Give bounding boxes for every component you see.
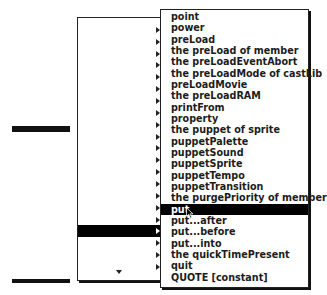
menu-item-mo-to-move[interactable] — [78, 178, 164, 190]
menu-item-p-to-pm[interactable] — [78, 214, 164, 226]
menu-item-m-to-mn[interactable] — [78, 166, 164, 178]
menu-item-fm-to-fz[interactable] — [78, 107, 164, 119]
menu-item-e[interactable] — [78, 83, 164, 95]
submenu-item-the-purgepriority-of-member[interactable]: the purgePriority of member — [161, 192, 308, 203]
submenu-item-preloadmovie[interactable]: preLoadMovie — [161, 79, 308, 90]
submenu-item-label: the preLoadRAM — [171, 90, 261, 101]
submenu-item-label: puppetSprite — [171, 158, 242, 169]
submenu-item-printfrom[interactable]: printFrom — [161, 102, 308, 113]
submenu-item-label: the preLoadMode of castLib — [171, 68, 322, 79]
menu-item-j-k-l-to-lin[interactable] — [78, 143, 164, 155]
submenu-item-power[interactable]: power — [161, 22, 308, 33]
submenu-item-label: preLoad — [171, 34, 215, 45]
menu-item-i[interactable] — [78, 131, 164, 143]
submenu-item-the-puppet-of-sprite[interactable]: the puppet of sprite — [161, 124, 308, 135]
submenu-item-label: puppetSound — [171, 147, 244, 158]
submenu-item-label: puppetTempo — [171, 170, 245, 181]
menu-item-movf-to-no[interactable] — [78, 190, 164, 202]
submenu-item-the-preloadmode-of-castlib[interactable]: the preLoadMode of castLib — [161, 68, 308, 79]
submenu-item-label: the puppet of sprite — [171, 124, 280, 135]
menu-item-ci-to-cz[interactable] — [78, 60, 164, 72]
menu-item-d[interactable] — [78, 71, 164, 83]
submenu-item-puppettransition[interactable]: puppetTransition — [161, 181, 308, 192]
menu-item-np-to-o[interactable] — [78, 202, 164, 214]
submenu-item-quote-constant[interactable]: QUOTE [constant] — [161, 272, 308, 283]
submenu-item-quit[interactable]: quit — [161, 260, 308, 271]
submenu-item-label: point — [171, 11, 199, 22]
submenu-item-put-into[interactable]: put...into — [161, 238, 308, 249]
menu-item-operators[interactable] — [78, 24, 164, 36]
submenu-item-label: the quickTimePresent — [171, 249, 290, 260]
menu-item-f-to-fl[interactable] — [78, 95, 164, 107]
lingo-category-menu — [77, 17, 165, 281]
menu-item-a-to-bl[interactable] — [78, 36, 164, 48]
submenu-item-puppetpalette[interactable]: puppetPalette — [161, 136, 308, 147]
submenu-item-the-preloadram[interactable]: the preLoadRAM — [161, 90, 308, 101]
submenu-item-label: power — [171, 22, 205, 33]
submenu-item-point[interactable]: point — [161, 11, 308, 22]
submenu-item-label: QUOTE [constant] — [171, 272, 268, 283]
submenu-item-label: puppetPalette — [171, 136, 248, 147]
submenu-item-the-quicktimepresent[interactable]: the quickTimePresent — [161, 249, 308, 260]
submenu-item-label: put...before — [171, 226, 236, 237]
submenu-item-puppettempo[interactable]: puppetTempo — [161, 170, 308, 181]
caption-rule-top — [12, 126, 70, 132]
submenu-item-label: property — [171, 113, 218, 124]
submenu-item-label: preLoadMovie — [171, 79, 247, 90]
scroll-down-arrow-icon[interactable] — [116, 270, 122, 274]
submenu-item-put-before[interactable]: put...before — [161, 226, 308, 237]
submenu-item-puppetsound[interactable]: puppetSound — [161, 147, 308, 158]
submenu-item-property[interactable]: property — [161, 113, 308, 124]
lingo-submenu-pn-to-q: pointpowerpreLoadthe preLoad of memberth… — [160, 9, 309, 288]
submenu-item-label: puppetTransition — [171, 181, 263, 192]
submenu-item-label: the preLoad of member — [171, 45, 298, 56]
submenu-item-puppetsprite[interactable]: puppetSprite — [161, 158, 308, 169]
submenu-item-label: quit — [171, 260, 193, 271]
submenu-item-the-preload-of-member[interactable]: the preLoad of member — [161, 45, 308, 56]
menu-item-bm-to-ch[interactable] — [78, 48, 164, 60]
menu-item-r[interactable] — [78, 237, 164, 249]
submenu-item-put[interactable]: put — [161, 204, 308, 215]
submenu-item-put-after[interactable]: put...after — [161, 215, 308, 226]
submenu-item-label: put...after — [171, 215, 227, 226]
submenu-item-label: printFrom — [171, 102, 225, 113]
menu-item-lio-to-lz[interactable] — [78, 154, 164, 166]
menu-item-pn-to-q[interactable] — [78, 225, 164, 237]
caption-rule-bottom — [12, 279, 70, 283]
submenu-item-the-preloadeventabort[interactable]: the preLoadEventAbort — [161, 56, 308, 67]
menu-item-g-h[interactable] — [78, 119, 164, 131]
submenu-item-preload[interactable]: preLoad — [161, 34, 308, 45]
submenu-item-label: the purgePriority of member — [171, 192, 327, 203]
menu-item-s-to-sd[interactable] — [78, 249, 164, 261]
submenu-item-label: the preLoadEventAbort — [171, 56, 297, 67]
submenu-item-label: put...into — [171, 238, 222, 249]
